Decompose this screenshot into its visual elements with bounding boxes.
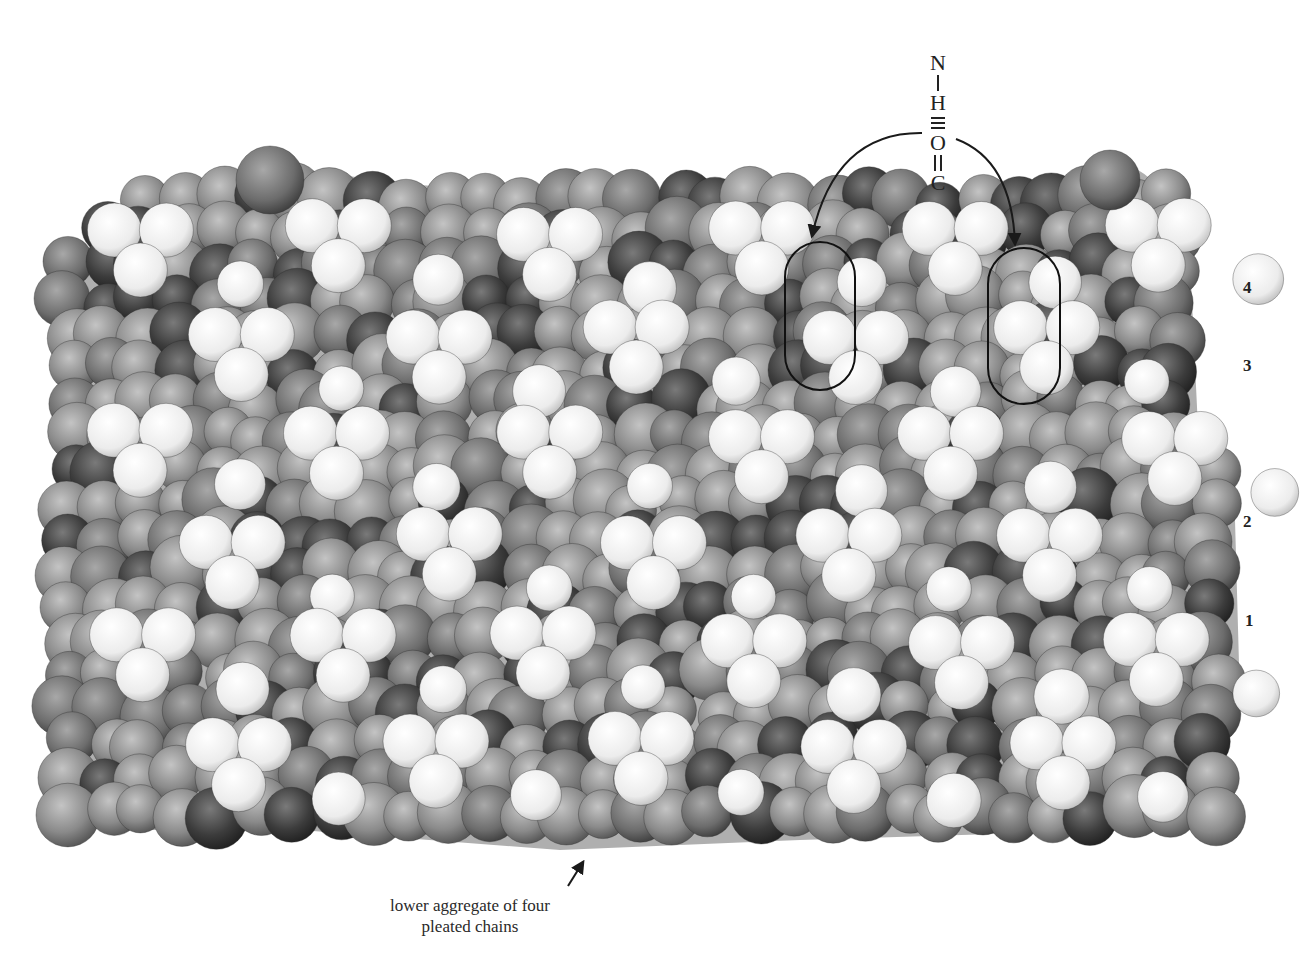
caption-pointer — [568, 862, 583, 886]
hydrogen-bond-icon — [921, 114, 955, 132]
atom-h: H — [921, 92, 955, 114]
layer-label-1: 1 — [1245, 612, 1254, 629]
atom-n: N — [921, 52, 955, 74]
figure-caption: lower aggregate of four pleated chains — [360, 895, 580, 937]
layer-label-3: 3 — [1243, 357, 1252, 374]
double-bond-icon — [921, 154, 955, 172]
caption-line-2: pleated chains — [360, 916, 580, 937]
layer-label-4: 4 — [1243, 279, 1252, 296]
molecular-model-figure — [0, 0, 1303, 971]
single-bond-icon — [921, 74, 955, 92]
atom-o: O — [921, 132, 955, 154]
layer-label-2: 2 — [1243, 513, 1252, 530]
hydrogen-bond-formula: N H O C — [921, 52, 955, 194]
atom-spheres — [32, 146, 1299, 849]
caption-line-1: lower aggregate of four — [360, 895, 580, 916]
atom-c: C — [921, 172, 955, 194]
